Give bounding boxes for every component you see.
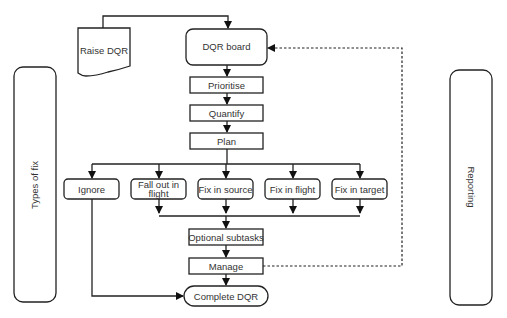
node-ignore-label: Ignore	[78, 184, 105, 195]
node-optional-subtasks: Optional subtasks	[188, 229, 264, 245]
connector-branch	[92, 149, 360, 178]
swimlane-types-of-fix-label: Types of fix	[29, 161, 40, 209]
swimlane-types-of-fix: Types of fix	[14, 67, 56, 302]
swimlane-reporting-label: Reporting	[466, 166, 477, 207]
flowchart-canvas: Types of fix Reporting Raise DQR DQR boa…	[0, 0, 507, 318]
node-prioritise: Prioritise	[190, 77, 263, 93]
node-optional-subtasks-label: Optional subtasks	[188, 232, 264, 243]
connector-merge	[159, 199, 360, 228]
node-fall-out-in-flight: Fall out in flight	[131, 179, 186, 199]
node-manage-label: Manage	[209, 261, 243, 272]
node-fix-in-target: Fix in target	[332, 179, 387, 199]
connector-raise-to-board	[103, 16, 228, 28]
node-fix-in-flight-label: Fix in flight	[270, 184, 316, 195]
node-ignore: Ignore	[64, 179, 119, 199]
node-quantify-label: Quantify	[209, 108, 245, 119]
connector-ignore-to-complete	[92, 199, 183, 296]
node-complete-dqr-label: Complete DQR	[194, 291, 259, 302]
node-fix-in-source-label: Fix in source	[199, 184, 253, 195]
node-dqr-board-label: DQR board	[202, 41, 250, 52]
node-fix-in-flight: Fix in flight	[265, 179, 320, 199]
node-plan: Plan	[190, 133, 263, 149]
node-plan-label: Plan	[217, 136, 236, 147]
node-manage: Manage	[189, 258, 263, 274]
node-dqr-board: DQR board	[186, 29, 267, 65]
node-raise-dqr-label: Raise DQR	[80, 45, 128, 56]
node-fix-in-source: Fix in source	[198, 179, 253, 199]
connector-feedback-dashed	[263, 48, 402, 266]
node-raise-dqr: Raise DQR	[78, 28, 130, 76]
node-complete-dqr: Complete DQR	[184, 286, 268, 306]
swimlane-reporting: Reporting	[450, 70, 492, 305]
node-quantify: Quantify	[190, 105, 263, 121]
node-fix-in-target-label: Fix in target	[335, 184, 385, 195]
node-fall-out-label-2: flight	[148, 188, 168, 199]
node-prioritise-label: Prioritise	[208, 80, 245, 91]
